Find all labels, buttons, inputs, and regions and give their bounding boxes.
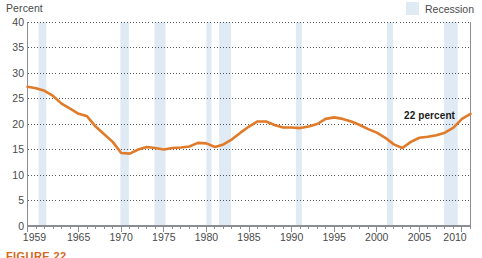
x-axis-tick-label: 1985 xyxy=(237,231,260,243)
chart-container: Percent Recession 0510152025303540 19591… xyxy=(0,0,482,258)
y-axis-tick-label: 15 xyxy=(2,144,24,155)
y-axis-tick-label: 30 xyxy=(2,68,24,79)
x-axis-tick-label: 2005 xyxy=(408,231,431,243)
value-callout-22-percent: 22 percent xyxy=(404,110,455,121)
recession-band xyxy=(154,22,165,226)
x-axis-tick-label: 1975 xyxy=(152,231,175,243)
x-axis-tick-label: 2010 xyxy=(443,231,466,243)
x-axis-tick-label: 1995 xyxy=(323,231,346,243)
y-axis-tick-label: 0 xyxy=(2,221,24,232)
chart-plot-area xyxy=(0,0,482,258)
x-axis-tick-label: 2000 xyxy=(365,231,388,243)
y-axis-tick-label: 40 xyxy=(2,17,24,28)
recession-band xyxy=(39,22,47,226)
x-axis-tick-label: 1959 xyxy=(23,231,46,243)
y-axis-tick-label: 10 xyxy=(2,170,24,181)
x-axis-tick-label: 1965 xyxy=(67,231,90,243)
y-axis-tick-label: 5 xyxy=(2,195,24,206)
y-axis-tick-label: 25 xyxy=(2,93,24,104)
y-axis-tick-label: 35 xyxy=(2,42,24,53)
x-axis-tick-label: 1970 xyxy=(110,231,133,243)
x-axis-tick-label: 1980 xyxy=(195,231,218,243)
x-axis-tick-label: 1990 xyxy=(280,231,303,243)
y-axis-tick-label: 20 xyxy=(2,119,24,130)
figure-caption: FIGURE 22 xyxy=(6,250,66,258)
y-axis-tick-labels: 0510152025303540 xyxy=(0,0,24,258)
